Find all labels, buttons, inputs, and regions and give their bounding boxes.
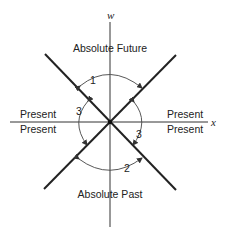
absolute-past-label: Absolute Past bbox=[78, 188, 143, 200]
w-axis-label: w bbox=[107, 9, 115, 21]
x-axis-label: x bbox=[210, 116, 216, 128]
present-left-upper-label: Present bbox=[20, 108, 56, 120]
origin-point bbox=[108, 120, 112, 124]
absolute-future-label: Absolute Future bbox=[73, 42, 147, 54]
light-cone-diagram: w x Absolute Future Absolute Past Presen… bbox=[0, 0, 231, 228]
arc-1-number: 1 bbox=[90, 74, 96, 86]
arc-3-right-number: 3 bbox=[136, 128, 142, 140]
present-right-lower-label: Present bbox=[167, 123, 203, 135]
arc-3-left-number: 3 bbox=[76, 105, 82, 117]
present-left-lower-label: Present bbox=[20, 123, 56, 135]
arc-2-number: 2 bbox=[124, 162, 130, 174]
present-right-upper-label: Present bbox=[167, 108, 203, 120]
